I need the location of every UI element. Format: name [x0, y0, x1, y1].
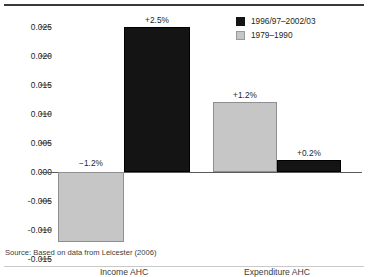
plot-area: 0.025 0.020 0.015 0.010 0.005 0.000 -0.0… [0, 14, 368, 242]
legend-swatch-dark-icon [236, 17, 245, 26]
bar-value-income-1979-1990: −1.2% [79, 158, 103, 168]
y-tick-label-4: 0.005 [0, 138, 52, 148]
legend-swatch-light-icon [236, 31, 245, 40]
bottom-divider [4, 266, 364, 267]
y-tick-label-3: 0.010 [0, 109, 52, 119]
source-note: Source: Based on data from Leicester (20… [5, 248, 157, 257]
y-tick-label-1: 0.020 [0, 51, 52, 61]
bar-expenditure-1979-1990[interactable] [213, 102, 277, 172]
bar-value-income-1996-2003: +2.5% [145, 15, 169, 25]
category-label-income: Income AHC [100, 267, 148, 277]
chart-legend: 1996/97–2002/03 1979–1990 [236, 15, 316, 43]
legend-label-1996-2003: 1996/97–2002/03 [251, 16, 316, 26]
bar-expenditure-1996-2003[interactable] [277, 160, 341, 172]
bar-income-1979-1990[interactable] [58, 172, 124, 242]
legend-label-1979-1990: 1979–1990 [251, 30, 293, 40]
y-tick-label-7: -0.010 [0, 225, 52, 235]
bar-value-expenditure-1996-2003: +0.2% [297, 148, 321, 158]
y-tick-label-0: 0.025 [0, 22, 52, 32]
y-tick-label-6: -0.005 [0, 196, 52, 206]
top-divider [4, 4, 364, 6]
category-label-expenditure: Expenditure AHC [244, 267, 310, 277]
legend-item-1996-2003[interactable]: 1996/97–2002/03 [236, 15, 316, 27]
bar-value-expenditure-1979-1990: +1.2% [233, 90, 257, 100]
bar-income-1996-2003[interactable] [124, 27, 190, 172]
y-tick-label-2: 0.015 [0, 80, 52, 90]
legend-item-1979-1990[interactable]: 1979–1990 [236, 29, 316, 41]
